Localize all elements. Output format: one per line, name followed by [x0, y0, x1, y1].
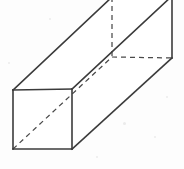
front-face-top-edge: [13, 89, 72, 90]
rectangular-prism-drawing: [0, 0, 184, 169]
prism-figure: [0, 0, 184, 169]
